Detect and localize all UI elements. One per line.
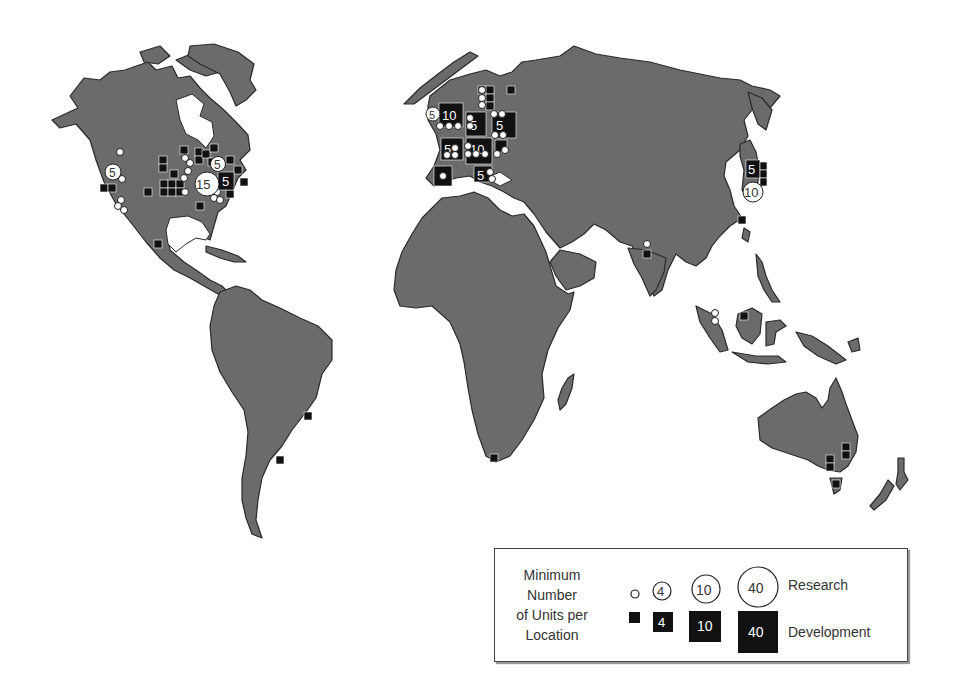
philippines [756, 254, 780, 302]
new-guinea [796, 332, 846, 364]
svg-text:40: 40 [748, 580, 764, 596]
marker-label: 5 [496, 118, 503, 133]
madagascar [558, 374, 574, 410]
marker-label: 5 [222, 174, 229, 189]
south-america [210, 286, 332, 538]
legend-development-label: Development [788, 624, 871, 640]
marker-label: 5 [429, 109, 435, 121]
legend-symbols: 4 4 10 10 40 40 [495, 549, 907, 661]
legend-research-label: Research [788, 577, 848, 593]
marker-label: 5 [109, 166, 116, 180]
markers-south-america-africa [276, 412, 498, 464]
svg-text:4: 4 [658, 615, 665, 630]
marker-label: 5 [748, 162, 755, 177]
marker-label: 15 [196, 177, 210, 192]
svg-text:10: 10 [696, 582, 712, 598]
marker-label: 10 [442, 108, 456, 123]
sulawesi [766, 320, 786, 346]
marker-label: 5 [477, 168, 484, 183]
arabia [550, 250, 596, 290]
marker-label: 5 [214, 158, 221, 172]
svg-text:40: 40 [748, 624, 764, 640]
research-symbol-min [631, 590, 639, 598]
new-zealand-south [870, 480, 894, 510]
taiwan [742, 228, 750, 242]
development-symbol-min [629, 612, 640, 623]
new-zealand-north [896, 458, 908, 490]
svg-text:10: 10 [697, 618, 713, 634]
svg-text:4: 4 [657, 584, 664, 599]
new-guinea-east [848, 338, 860, 352]
marker-label: 10 [744, 185, 758, 200]
legend: Minimum Number of Units per Location 4 4… [494, 548, 908, 662]
java [732, 352, 786, 364]
caribbean [206, 246, 246, 262]
